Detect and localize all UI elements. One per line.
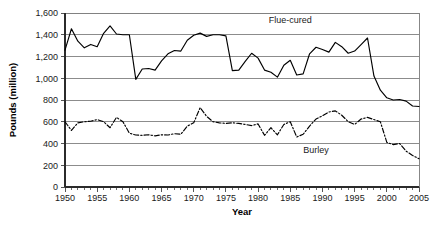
y-tick-label-1200: 1,200 xyxy=(35,52,58,62)
x-tick-label-1995: 1995 xyxy=(345,193,365,203)
x-tick-label-1990: 1990 xyxy=(312,193,332,203)
x-tick-label-2000: 2000 xyxy=(377,193,397,203)
x-tick-label-1970: 1970 xyxy=(184,193,204,203)
x-tick-label-1975: 1975 xyxy=(216,193,236,203)
y-tick-label-1000: 1,000 xyxy=(35,74,58,84)
y-tick-label-200: 200 xyxy=(43,161,58,171)
x-tick-label-1960: 1960 xyxy=(119,193,139,203)
x-tick-label-1965: 1965 xyxy=(152,193,172,203)
x-tick-label-1980: 1980 xyxy=(248,193,268,203)
y-tick-label-400: 400 xyxy=(43,139,58,149)
y-tick-label-1600: 1,600 xyxy=(35,8,58,18)
y-tick-label-600: 600 xyxy=(43,117,58,127)
y-tick-label-1400: 1,400 xyxy=(35,30,58,40)
y-axis-title: Pounds (million) xyxy=(7,63,18,137)
line-chart: 02004006008001,0001,2001,4001,600 195019… xyxy=(0,0,444,233)
x-tick-label-2005: 2005 xyxy=(409,193,429,203)
chart-figure: 02004006008001,0001,2001,4001,600 195019… xyxy=(0,0,444,233)
y-tick-label-0: 0 xyxy=(53,182,58,192)
series-label-burley: Burley xyxy=(303,145,329,155)
x-axis-title: Year xyxy=(232,206,252,217)
x-tick-label-1950: 1950 xyxy=(55,193,75,203)
x-tick-label-1985: 1985 xyxy=(280,193,300,203)
y-tick-label-800: 800 xyxy=(43,95,58,105)
x-tick-label-1955: 1955 xyxy=(87,193,107,203)
series-label-flue-cured: Flue-cured xyxy=(269,15,312,25)
